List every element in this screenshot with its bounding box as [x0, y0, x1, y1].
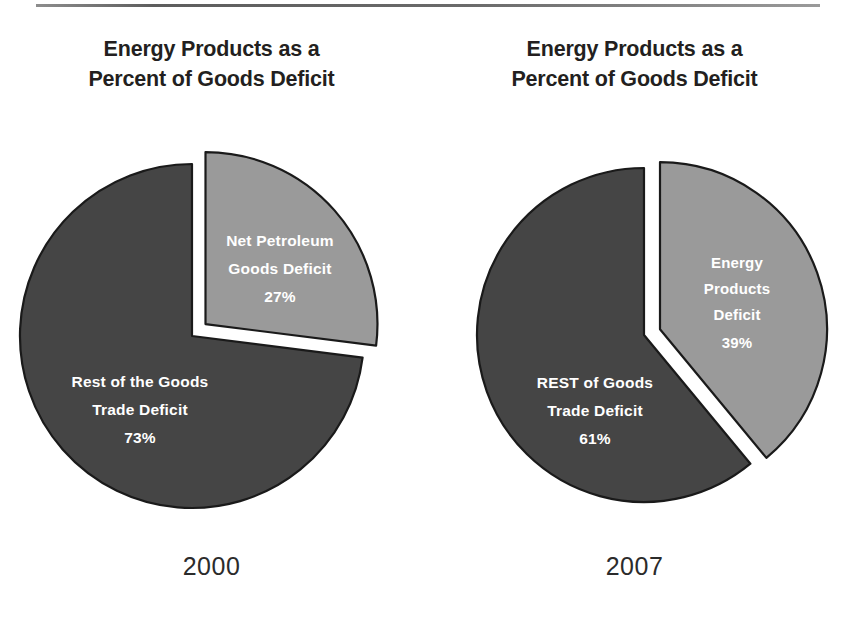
page-title-2007: Energy Products as a Percent of Goods De…	[423, 34, 846, 94]
title-line-1: Energy Products as a	[0, 34, 423, 64]
pie-chart-2007: Energy Products Deficit 39% REST of Good…	[423, 128, 846, 528]
title-line-1: Energy Products as a	[423, 34, 846, 64]
label-line-3: Deficit	[713, 306, 760, 323]
year-label-2000: 2000	[0, 552, 423, 581]
label-line-1: Net Petroleum	[226, 232, 334, 249]
label-line-2: Trade Deficit	[92, 401, 188, 418]
title-line-2: Percent of Goods Deficit	[423, 64, 846, 94]
chart-panel-2007: Energy Products as a Percent of Goods De…	[423, 0, 846, 622]
chart-panel-2000: Energy Products as a Percent of Goods De…	[0, 0, 423, 622]
pie-svg-2007: Energy Products Deficit 39% REST of Good…	[423, 128, 846, 528]
label-value: 73%	[124, 429, 156, 446]
label-value: 61%	[579, 430, 611, 447]
figure-root: Energy Products as a Percent of Goods De…	[0, 0, 846, 622]
label-value: 27%	[264, 288, 296, 305]
label-line-2: Products	[704, 280, 771, 297]
pie-chart-2000: Net Petroleum Goods Deficit 27% Rest of …	[0, 128, 423, 528]
page-title-2000: Energy Products as a Percent of Goods De…	[0, 34, 423, 94]
title-line-2: Percent of Goods Deficit	[0, 64, 423, 94]
year-label-2007: 2007	[423, 552, 846, 581]
pie-svg-2000: Net Petroleum Goods Deficit 27% Rest of …	[0, 128, 423, 528]
label-line-1: Rest of the Goods	[72, 373, 209, 390]
label-line-1: REST of Goods	[537, 374, 653, 391]
label-value: 39%	[722, 334, 753, 351]
label-line-2: Trade Deficit	[547, 402, 643, 419]
label-line-1: Energy	[711, 254, 764, 271]
label-line-2: Goods Deficit	[228, 260, 331, 277]
